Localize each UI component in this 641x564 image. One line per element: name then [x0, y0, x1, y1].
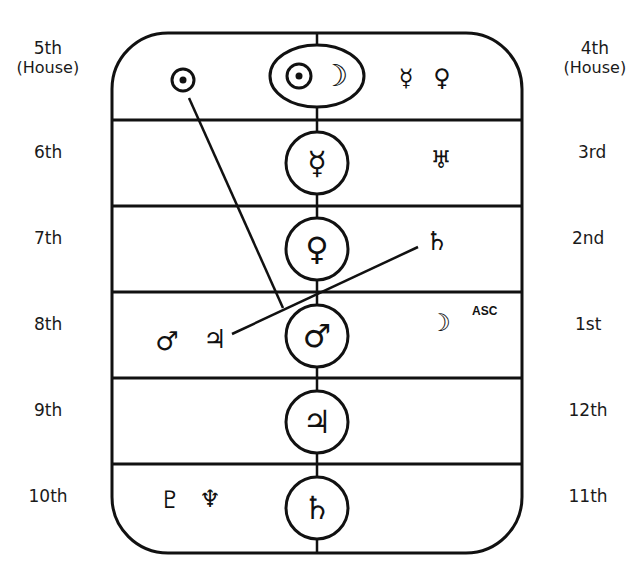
mars-icon: ♂ [303, 317, 332, 355]
house-number: 10th [29, 486, 68, 506]
center-node-mars: ♂ [286, 305, 348, 367]
house-number: 2nd [572, 228, 604, 248]
sun-placement-icon [172, 69, 194, 91]
house-label-1st: 1st [575, 314, 601, 334]
aspect-lines [189, 98, 418, 334]
house-number: 9th [34, 400, 62, 420]
house-label-7th: 7th [34, 228, 62, 248]
jupiter-icon: ♃ [203, 326, 226, 352]
mercury-icon: ☿ [399, 66, 414, 90]
house-label-4th: 4th(House) [564, 38, 627, 78]
house-number: 6th [34, 142, 62, 162]
center-node-sun-moon: ☽ [270, 45, 364, 107]
jupiter-icon: ♃ [303, 403, 332, 441]
house-number: 12th [569, 400, 608, 420]
house-number: 5th [34, 38, 62, 58]
house-number: 3rd [578, 142, 606, 162]
center-node-venus: ♀ [286, 218, 348, 280]
house-label-8th: 8th [34, 314, 62, 334]
house-label-11th: 11th [569, 486, 608, 506]
saturn-icon: ♄ [425, 228, 448, 254]
aspect-line-sun-mars-jupiter [189, 98, 283, 308]
house-number: 7th [34, 228, 62, 248]
center-node-jupiter: ♃ [286, 391, 348, 453]
venus-icon: ♀ [305, 230, 328, 268]
house-label-2nd: 2nd [572, 228, 604, 248]
house-number: 8th [34, 314, 62, 334]
sun-icon-dot [180, 77, 187, 84]
house-number: 4th [581, 38, 609, 58]
ellipse-outline [270, 45, 364, 107]
house-label-5th: 5th(House) [17, 38, 80, 78]
house-sublabel: (House) [564, 58, 627, 78]
house-label-6th: 6th [34, 142, 62, 162]
house-label-12th: 12th [569, 400, 608, 420]
house-chart-diagram: ☽☿♀♂♃♄ [0, 0, 641, 564]
mars-icon: ♂ [155, 328, 178, 354]
house-number: 11th [569, 486, 608, 506]
center-node-saturn: ♄ [286, 477, 348, 539]
moon-icon: ☽ [429, 311, 451, 335]
house-label-3rd: 3rd [578, 142, 606, 162]
neptune-icon: ♆ [199, 487, 221, 511]
uranus-icon: ♅ [430, 148, 452, 172]
pluto-icon: ♇ [159, 488, 181, 512]
sun-icon-dot [296, 73, 303, 80]
saturn-icon: ♄ [303, 489, 332, 527]
house-label-9th: 9th [34, 400, 62, 420]
moon-icon: ☽ [322, 58, 349, 93]
venus-icon: ♀ [433, 66, 451, 90]
house-sublabel: (House) [17, 58, 80, 78]
ascendant-label: ASC [472, 304, 497, 318]
mercury-icon: ☿ [307, 144, 327, 182]
house-label-10th: 10th [29, 486, 68, 506]
center-node-mercury: ☿ [286, 132, 348, 194]
house-number: 1st [575, 314, 601, 334]
